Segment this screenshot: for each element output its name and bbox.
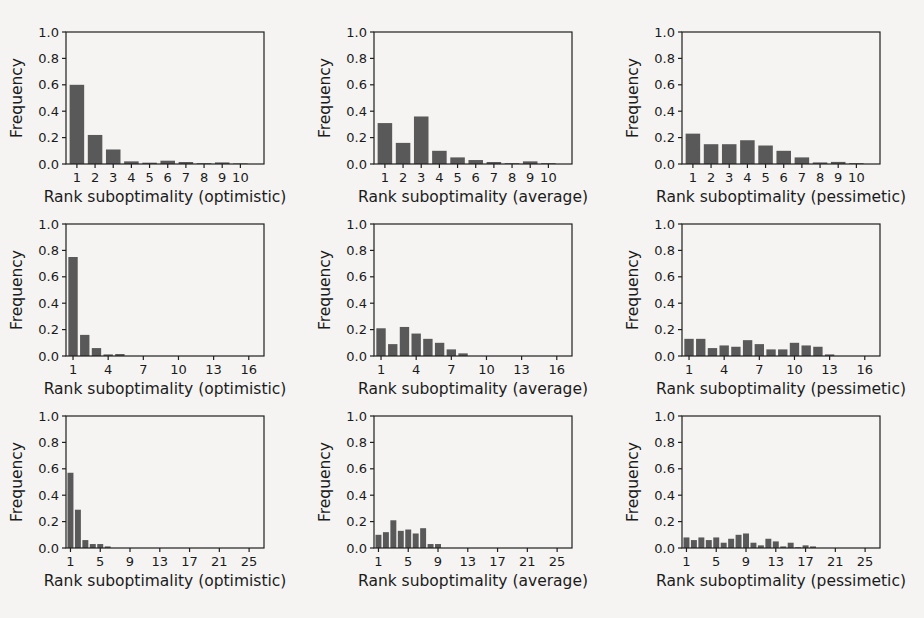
x-tick-label: 9 bbox=[126, 554, 134, 569]
y-tick-label: 0.6 bbox=[346, 461, 367, 476]
plot-box bbox=[374, 416, 572, 548]
x-tick-label: 7 bbox=[447, 362, 455, 377]
x-tick-label: 9 bbox=[434, 554, 442, 569]
y-axis-label: Frequency bbox=[316, 58, 334, 138]
histogram-bar bbox=[375, 535, 381, 548]
y-tick-label: 0.4 bbox=[346, 488, 367, 503]
x-tick-label: 13 bbox=[460, 554, 477, 569]
x-tick-label: 21 bbox=[519, 554, 536, 569]
x-axis-label: Rank suboptimality (average) bbox=[358, 572, 588, 590]
y-tick-label: 0.6 bbox=[346, 269, 367, 284]
histogram-bar bbox=[447, 349, 456, 356]
histogram-bar bbox=[698, 537, 704, 548]
y-tick-label: 1.0 bbox=[38, 217, 59, 232]
y-tick-label: 0.0 bbox=[346, 541, 367, 556]
histogram-bar bbox=[686, 134, 701, 164]
histogram-bar bbox=[704, 144, 719, 164]
x-tick-label: 7 bbox=[182, 170, 190, 185]
histogram-bar bbox=[70, 85, 85, 164]
bar-chart: 0.00.20.40.60.81.0147101316FrequencyRank… bbox=[308, 212, 616, 404]
histogram-bar bbox=[68, 257, 77, 356]
y-tick-label: 0.4 bbox=[654, 296, 675, 311]
x-tick-label: 1 bbox=[374, 554, 382, 569]
y-tick-label: 0.4 bbox=[654, 104, 675, 119]
histogram-bar bbox=[758, 146, 773, 164]
y-tick-label: 0.8 bbox=[654, 51, 675, 66]
y-tick-label: 0.0 bbox=[654, 349, 675, 364]
x-tick-label: 13 bbox=[205, 362, 222, 377]
x-tick-label: 3 bbox=[109, 170, 117, 185]
y-tick-label: 0.4 bbox=[346, 104, 367, 119]
x-tick-label: 17 bbox=[489, 554, 506, 569]
y-tick-label: 0.4 bbox=[38, 488, 59, 503]
y-tick-label: 0.8 bbox=[38, 243, 59, 258]
y-tick-label: 0.0 bbox=[654, 541, 675, 556]
subplot-average-top: 0.00.20.40.60.81.012345678910FrequencyRa… bbox=[308, 20, 616, 212]
x-tick-label: 8 bbox=[200, 170, 208, 185]
histogram-bar bbox=[390, 520, 396, 548]
histogram-bar bbox=[755, 344, 764, 356]
x-tick-label: 9 bbox=[834, 170, 842, 185]
y-tick-label: 0.6 bbox=[654, 269, 675, 284]
y-tick-label: 0.0 bbox=[346, 157, 367, 172]
histogram-bar bbox=[420, 528, 426, 548]
x-tick-label: 13 bbox=[152, 554, 169, 569]
histogram-bar bbox=[722, 144, 737, 164]
y-tick-label: 0.0 bbox=[38, 349, 59, 364]
histogram-bar bbox=[388, 344, 397, 356]
histogram-bar bbox=[82, 540, 88, 548]
x-tick-label: 6 bbox=[780, 170, 788, 185]
histogram-bar bbox=[795, 157, 810, 164]
histogram-bar bbox=[765, 539, 771, 548]
histogram-bar bbox=[719, 345, 728, 356]
y-axis-label: Frequency bbox=[624, 58, 642, 138]
histogram-bar bbox=[376, 328, 385, 356]
x-tick-label: 10 bbox=[232, 170, 249, 185]
y-tick-label: 0.2 bbox=[38, 130, 59, 145]
x-axis-label: Rank suboptimality (optimistic) bbox=[44, 380, 287, 398]
histogram-bar bbox=[414, 116, 429, 164]
bar-chart: 0.00.20.40.60.81.012345678910FrequencyRa… bbox=[308, 20, 616, 212]
histogram-bar bbox=[405, 530, 411, 548]
x-tick-label: 4 bbox=[412, 362, 420, 377]
x-tick-label: 21 bbox=[211, 554, 228, 569]
y-tick-label: 0.8 bbox=[346, 51, 367, 66]
histogram-bar bbox=[88, 135, 103, 164]
x-tick-label: 2 bbox=[707, 170, 715, 185]
x-tick-label: 3 bbox=[725, 170, 733, 185]
bar-chart: 0.00.20.40.60.81.0147101316FrequencyRank… bbox=[0, 212, 308, 404]
y-tick-label: 0.2 bbox=[346, 130, 367, 145]
y-tick-label: 0.6 bbox=[654, 461, 675, 476]
x-tick-label: 10 bbox=[170, 362, 187, 377]
x-tick-label: 9 bbox=[742, 554, 750, 569]
x-tick-label: 4 bbox=[104, 362, 112, 377]
x-tick-label: 1 bbox=[685, 362, 693, 377]
x-tick-label: 1 bbox=[381, 170, 389, 185]
histogram-bar bbox=[435, 343, 444, 356]
y-tick-label: 0.8 bbox=[346, 435, 367, 450]
x-tick-label: 5 bbox=[761, 170, 769, 185]
y-axis-label: Frequency bbox=[8, 442, 26, 522]
y-tick-label: 0.8 bbox=[654, 435, 675, 450]
y-tick-label: 0.2 bbox=[38, 514, 59, 529]
x-tick-label: 16 bbox=[240, 362, 257, 377]
y-tick-label: 0.4 bbox=[38, 296, 59, 311]
y-tick-label: 0.0 bbox=[38, 157, 59, 172]
histogram-bar bbox=[743, 340, 752, 356]
histogram-bar bbox=[728, 539, 734, 548]
x-axis-label: Rank suboptimality (pessimetic) bbox=[656, 572, 906, 590]
y-tick-label: 0.4 bbox=[346, 296, 367, 311]
x-tick-label: 8 bbox=[816, 170, 824, 185]
x-tick-label: 1 bbox=[682, 554, 690, 569]
bar-chart: 0.00.20.40.60.81.012345678910FrequencyRa… bbox=[0, 20, 308, 212]
subplot-optimistic-top: 0.00.20.40.60.81.012345678910FrequencyRa… bbox=[0, 20, 308, 212]
x-tick-label: 5 bbox=[145, 170, 153, 185]
x-tick-label: 25 bbox=[549, 554, 566, 569]
x-tick-label: 1 bbox=[66, 554, 74, 569]
x-tick-label: 4 bbox=[743, 170, 751, 185]
plot-box bbox=[682, 224, 880, 356]
figure-page: 0.00.20.40.60.81.012345678910FrequencyRa… bbox=[0, 0, 924, 618]
x-tick-label: 4 bbox=[435, 170, 443, 185]
x-tick-label: 16 bbox=[856, 362, 873, 377]
x-tick-label: 10 bbox=[540, 170, 557, 185]
